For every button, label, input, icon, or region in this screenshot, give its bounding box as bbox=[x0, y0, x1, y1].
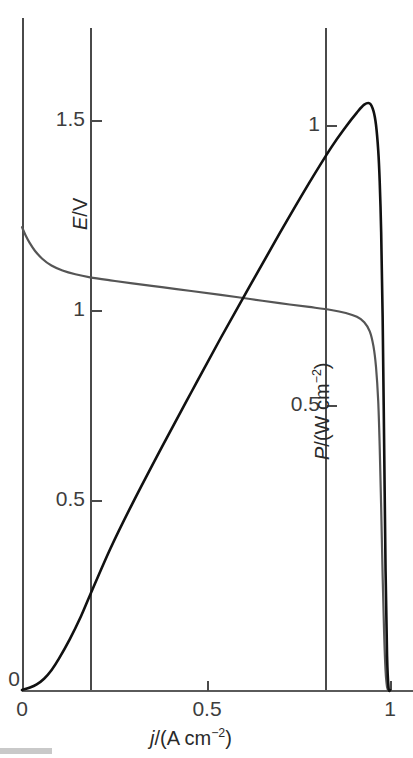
plot-area bbox=[0, 0, 413, 758]
curve-cell-voltage bbox=[22, 227, 389, 690]
page-footer-rule bbox=[0, 748, 52, 754]
figure-container: 1.5 1 0.5 0 1 0.5 0 0.5 1 E/V P/(W cm−2)… bbox=[0, 0, 413, 758]
curve-power-density bbox=[22, 103, 390, 691]
